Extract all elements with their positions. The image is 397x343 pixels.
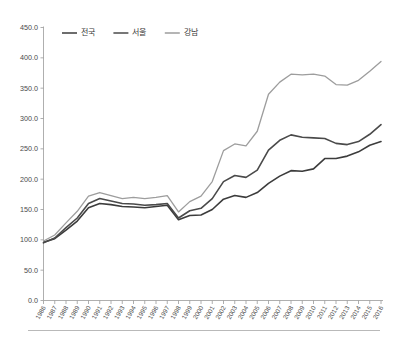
- series-line-2: [44, 125, 382, 243]
- series-line-1: [44, 142, 382, 243]
- y-tick-label: 100.0: [20, 235, 38, 244]
- x-axis: 1986198719881989199019911992199319941995…: [34, 301, 385, 321]
- series-line-3: [44, 61, 382, 241]
- y-tick-label: 350.0: [20, 84, 38, 93]
- y-tick-label: 0.0: [28, 296, 38, 305]
- y-tick-label: 250.0: [20, 144, 38, 153]
- line-chart: 0.050.0100.0150.0200.0250.0300.0350.0400…: [0, 0, 397, 343]
- y-tick-group: 0.050.0100.0150.0200.0250.0300.0350.0400…: [20, 23, 44, 305]
- y-tick-label: 450.0: [20, 23, 38, 32]
- y-tick-label: 50.0: [24, 266, 38, 275]
- y-axis: 0.050.0100.0150.0200.0250.0300.0350.0400…: [20, 23, 44, 305]
- x-tick-group: 1986198719881989199019911992199319941995…: [34, 301, 385, 321]
- x-tick-label: 2016: [371, 304, 384, 320]
- y-tick-label: 400.0: [20, 53, 38, 62]
- legend-label-2: 서울: [132, 28, 146, 37]
- legend-label-1: 전국: [81, 27, 95, 37]
- y-tick-label: 200.0: [20, 175, 38, 184]
- y-tick-label: 150.0: [20, 205, 38, 214]
- x-tick-label: 2010: [304, 304, 317, 320]
- chart-figure: 0.050.0100.0150.0200.0250.0300.0350.0400…: [0, 0, 397, 343]
- chart-legend: 전국서울강남: [62, 27, 199, 37]
- legend-label-3: 강남: [184, 27, 199, 37]
- series-group: [44, 61, 382, 242]
- y-tick-label: 300.0: [20, 114, 38, 123]
- footer-divider: [28, 330, 380, 331]
